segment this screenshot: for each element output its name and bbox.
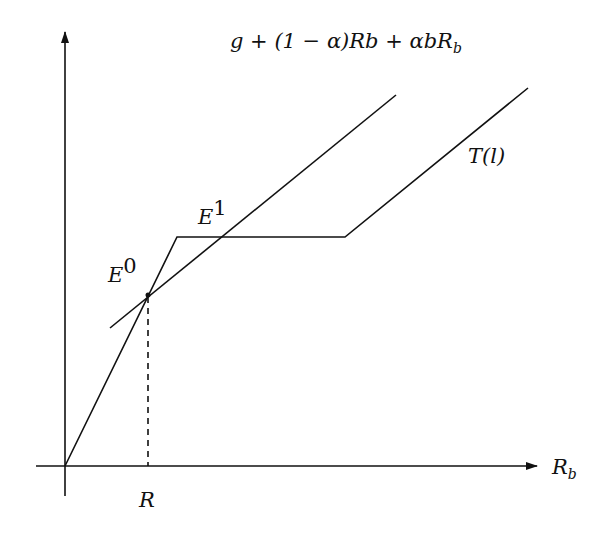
budget-line-label: g + (1 − α)Rb + αbRb	[230, 29, 462, 56]
budget-line	[110, 95, 396, 328]
e0-label: E0	[107, 254, 137, 287]
r-tick-label: R	[138, 488, 155, 512]
e1-label: E1	[197, 196, 227, 229]
diagram-canvas: g + (1 − α)Rb + αbRb T(l) E1 E0 R Rb	[0, 0, 615, 539]
e0-point	[146, 293, 151, 298]
t-curve-label: T(l)	[468, 144, 505, 168]
x-axis-label: Rb	[551, 455, 577, 482]
